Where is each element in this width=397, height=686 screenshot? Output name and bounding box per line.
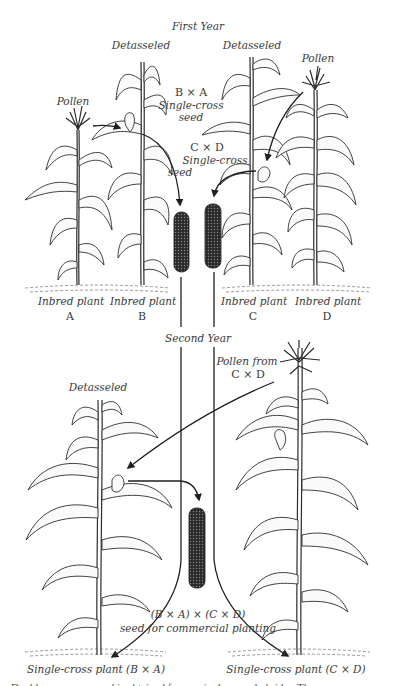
label-single-cross-ba-detasseled: Detasseled bbox=[69, 382, 127, 393]
figure-caption-partial: ... Double-cross corn seed is obtained f… bbox=[0, 680, 397, 686]
label-plant-b-detasseled: Detasseled bbox=[112, 40, 170, 51]
label-seed-ba-type: Single-cross bbox=[158, 100, 223, 111]
label-commercial-seed: seed for commercial planting bbox=[120, 623, 276, 634]
corn-hybridization-diagram: First Year Detasseled Detasseled Pollen … bbox=[0, 0, 397, 686]
cob-double-cross-seed bbox=[189, 508, 205, 588]
ground-first-year-left bbox=[25, 285, 170, 292]
section-title-first-year: First Year bbox=[172, 21, 224, 32]
label-plant-d-inbred: Inbred plant bbox=[295, 296, 361, 307]
ground-second-year-right bbox=[228, 649, 370, 656]
label-seed-cd-seed: seed bbox=[168, 167, 193, 178]
label-plant-b-inbred: Inbred plant bbox=[110, 296, 176, 307]
letter-plant-b: B bbox=[138, 311, 146, 322]
label-plant-c-inbred: Inbred plant bbox=[221, 296, 287, 307]
letter-plant-a: A bbox=[66, 311, 74, 322]
plant-b-inbred bbox=[92, 62, 172, 285]
label-plant-a-inbred: Inbred plant bbox=[38, 296, 104, 307]
label-plant-c-detasseled: Detasseled bbox=[223, 40, 281, 51]
plant-d-inbred bbox=[276, 66, 356, 285]
label-plant-a-pollen: Pollen bbox=[57, 96, 90, 107]
label-pollen-from: Pollen from bbox=[216, 356, 277, 367]
label-double-cross: (B × A) × (C × D) bbox=[151, 609, 246, 620]
label-seed-ba-cross: B × A bbox=[175, 87, 207, 98]
ground-second-year-left bbox=[25, 649, 166, 656]
label-seed-ba-seed: seed bbox=[179, 112, 204, 123]
ground-first-year-right bbox=[222, 285, 372, 292]
label-single-cross-plant-ba: Single-cross plant (B × A) bbox=[27, 664, 165, 675]
label-pollen-from-cross: C × D bbox=[231, 369, 264, 380]
plant-single-cross-cd bbox=[236, 340, 368, 655]
cob-cd-single-cross-seed bbox=[205, 204, 221, 268]
cob-ba-single-cross-seed bbox=[174, 212, 189, 272]
label-single-cross-plant-cd: Single-cross plant (C × D) bbox=[226, 664, 365, 675]
letter-plant-c: C bbox=[249, 311, 257, 322]
label-plant-d-pollen: Pollen bbox=[302, 53, 335, 64]
label-seed-cd-cross: C × D bbox=[190, 142, 223, 153]
section-title-second-year: Second Year bbox=[165, 333, 231, 344]
letter-plant-d: D bbox=[323, 311, 332, 322]
label-seed-cd-type: Single-cross bbox=[182, 155, 247, 166]
